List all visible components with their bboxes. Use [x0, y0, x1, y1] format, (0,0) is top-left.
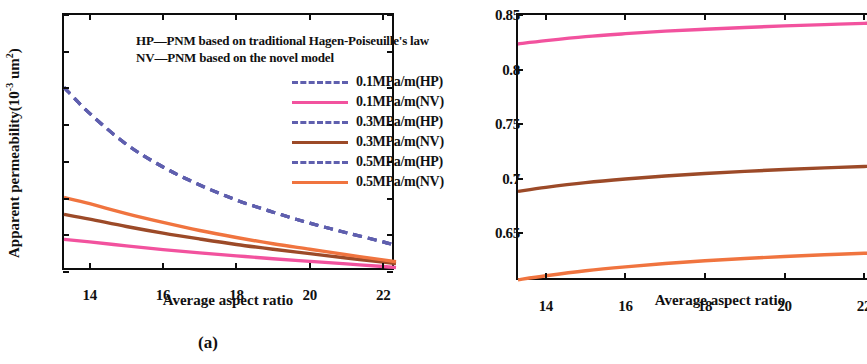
legend-label: 0.5MPa/m(HP): [356, 154, 443, 170]
y-tick-0.5: [387, 87, 393, 89]
legend-swatch-icon: [292, 161, 348, 164]
x-tick-22: [863, 273, 865, 279]
curve-0-5mpa-m: [518, 253, 867, 280]
x-tick-label-14: 14: [82, 287, 96, 304]
figure-container: Apparent permeability(10-3 um2) Average …: [0, 0, 867, 364]
x-tick-16: [162, 263, 164, 269]
legend-label: 0.5MPa/m(NV): [356, 174, 444, 190]
y-tick-0.2: [63, 198, 69, 200]
legend-item[interactable]: 0.5MPa/m(NV): [292, 172, 444, 192]
x-tick-18: [704, 14, 706, 20]
y-tick-0.7: [387, 14, 393, 16]
legend-item[interactable]: 0.1MPa/m(HP): [292, 72, 444, 92]
x-axis-title-b: Average aspect ratio: [655, 292, 786, 309]
x-tick-18: [235, 14, 237, 20]
x-tick-16: [624, 14, 626, 20]
x-axis-title-a: Average aspect ratio: [163, 292, 294, 309]
y-tick-0.1: [387, 234, 393, 236]
y-tick-0.4: [63, 124, 69, 126]
legend-swatch-icon: [292, 121, 348, 124]
y-tick-label-0.75: 0.75: [495, 116, 520, 133]
y-tick-0.2: [387, 198, 393, 200]
x-tick-label-20: 20: [303, 287, 317, 304]
x-tick-18: [704, 273, 706, 279]
x-tick-20: [784, 273, 786, 279]
y-tick-0.7: [63, 14, 69, 16]
x-tick-14: [89, 263, 91, 269]
legend-item[interactable]: 0.5MPa/m(HP): [292, 152, 444, 172]
y-tick-label-0.65: 0.65: [495, 225, 520, 242]
plot-area-a: HP—PNM based on traditional Hagen-Poiseu…: [62, 13, 394, 270]
legend-swatch-icon: [292, 101, 348, 104]
x-tick-20: [309, 263, 311, 269]
x-tick-label-16: 16: [156, 287, 170, 304]
x-tick-label-14: 14: [539, 298, 553, 315]
legend-swatch-icon: [292, 141, 348, 144]
x-tick-20: [784, 14, 786, 20]
legend-label: 0.1MPa/m(HP): [356, 74, 443, 90]
y-axis-title-a: Apparent permeability(10-3 um2): [4, 48, 23, 258]
x-tick-16: [624, 273, 626, 279]
curve-0-1mpa-m: [518, 23, 867, 44]
x-tick-16: [162, 14, 164, 20]
y-tick-0.5: [63, 87, 69, 89]
curve-0-5mpa-m-nv-: [64, 197, 396, 261]
y-tick-label-0.8: 0.8: [502, 61, 520, 78]
x-tick-22: [863, 14, 865, 20]
y-tick-label-0.85: 0.85: [495, 7, 520, 24]
x-tick-label-18: 18: [229, 287, 243, 304]
y-tick-0.1: [63, 234, 69, 236]
x-tick-18: [235, 263, 237, 269]
legend-label: 0.3MPa/m(NV): [356, 134, 444, 150]
panel-a: Apparent permeability(10-3 um2) Average …: [0, 0, 440, 364]
legend-swatch-icon: [292, 181, 348, 184]
annotation-nv: NV—PNM based on the novel model: [136, 50, 334, 66]
y-tick-0: [387, 271, 393, 273]
curves-b: [518, 15, 867, 282]
panel-b: Permeability deviation Average aspect ra…: [440, 0, 867, 364]
legend-label: 0.1MPa/m(NV): [356, 94, 444, 110]
x-tick-label-16: 16: [618, 298, 632, 315]
y-tick-0.3: [387, 161, 393, 163]
legend-a: 0.1MPa/m(HP)0.1MPa/m(NV)0.3MPa/m(HP)0.3M…: [292, 72, 444, 192]
x-tick-label-18: 18: [698, 298, 712, 315]
plot-area-b: 14161820220.650.70.750.80.85: [516, 13, 867, 280]
x-tick-14: [89, 14, 91, 20]
y-tick-0.6: [63, 51, 69, 53]
legend-label: 0.3MPa/m(HP): [356, 114, 443, 130]
y-tick-label-0.7: 0.7: [502, 170, 520, 187]
x-tick-14: [545, 14, 547, 20]
x-tick-label-20: 20: [777, 298, 791, 315]
y-tick-0.4: [387, 124, 393, 126]
y-tick-0: [63, 271, 69, 273]
legend-item[interactable]: 0.3MPa/m(NV): [292, 132, 444, 152]
x-tick-22: [382, 263, 384, 269]
panel-caption-a: (a): [198, 333, 218, 353]
annotation-hp: HP—PNM based on traditional Hagen-Poiseu…: [136, 33, 429, 49]
x-tick-20: [309, 14, 311, 20]
y-tick-0.6: [387, 51, 393, 53]
y-tick-0.3: [63, 161, 69, 163]
x-tick-label-22: 22: [376, 287, 390, 304]
legend-item[interactable]: 0.1MPa/m(NV): [292, 92, 444, 112]
legend-swatch-icon: [292, 81, 348, 84]
x-tick-14: [545, 273, 547, 279]
x-tick-22: [382, 14, 384, 20]
x-tick-label-22: 22: [857, 298, 867, 315]
legend-item[interactable]: 0.3MPa/m(HP): [292, 112, 444, 132]
curve-0-3mpa-m: [518, 166, 867, 191]
